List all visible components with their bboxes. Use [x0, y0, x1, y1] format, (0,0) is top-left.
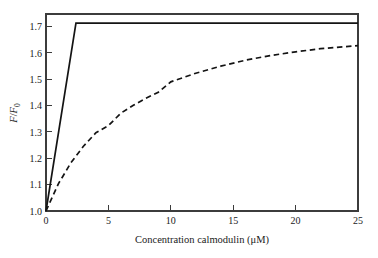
x-tick-label-15: 15 — [228, 215, 238, 226]
chart-svg: 1.0 1.1 1.2 1.3 1.4 1.5 1.6 1.7 0 5 10 1… — [0, 0, 378, 258]
x-tick-label-5: 5 — [106, 215, 111, 226]
y-tick-label-1.7: 1.7 — [30, 21, 43, 32]
y-tick-label-1.1: 1.1 — [30, 179, 43, 190]
chart-background — [0, 0, 378, 258]
x-axis-title: Concentration calmodulin (μM) — [135, 234, 269, 246]
y-tick-label-1.4: 1.4 — [30, 100, 43, 111]
x-tick-label-0: 0 — [44, 215, 49, 226]
x-axis-title-text: Concentration calmodulin (μM) — [135, 234, 269, 246]
x-tick-label-20: 20 — [291, 215, 301, 226]
y-tick-label-1.3: 1.3 — [30, 127, 43, 138]
y-tick-label-1.2: 1.2 — [30, 153, 43, 164]
y-tick-label-1.5: 1.5 — [30, 74, 43, 85]
y-tick-label-1.0: 1.0 — [30, 206, 43, 217]
y-axis-title-subscript: 0 — [13, 103, 22, 107]
x-tick-label-25: 25 — [353, 215, 363, 226]
chart-figure: 1.0 1.1 1.2 1.3 1.4 1.5 1.6 1.7 0 5 10 1… — [0, 0, 378, 258]
y-tick-label-1.6: 1.6 — [30, 48, 43, 59]
x-tick-label-10: 10 — [166, 215, 176, 226]
